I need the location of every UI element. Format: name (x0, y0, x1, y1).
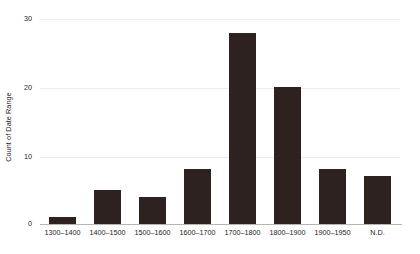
y-tick-label-0: 0 (6, 220, 32, 228)
bars-layer (40, 19, 400, 224)
bar-1800-1900[interactable] (274, 87, 301, 224)
x-axis-line (40, 224, 402, 225)
x-tick-label: 1900–1950 (310, 228, 355, 238)
y-tick-label-10: 10 (6, 153, 32, 161)
bar-1600-1700[interactable] (184, 169, 211, 224)
bar-1400-1500[interactable] (94, 190, 121, 224)
bar-1900-1950[interactable] (319, 169, 346, 224)
x-tick-label: 1300–1400 (40, 228, 85, 238)
bar-1700-1800[interactable] (229, 33, 256, 224)
bar-1500-1600[interactable] (139, 197, 166, 224)
x-tick-label: 1500–1600 (130, 228, 175, 238)
y-tick-label-30: 30 (6, 15, 32, 23)
x-tick-label: 1700–1800 (220, 228, 265, 238)
bar-nd[interactable] (364, 176, 391, 224)
x-axis-tick-labels: 1300–1400 1400–1500 1500–1600 1600–1700 … (40, 228, 400, 242)
x-tick-label: 1400–1500 (85, 228, 130, 238)
y-tick-label-20: 20 (6, 84, 32, 92)
x-tick-label: 1600–1700 (175, 228, 220, 238)
x-tick-label: 1800–1900 (265, 228, 310, 238)
bar-1300-1400[interactable] (49, 217, 76, 224)
bar-chart-figure: Count of Date Range 30 20 10 0 1300–1400… (0, 0, 420, 254)
x-tick-label: N.D. (355, 228, 400, 238)
y-axis-title: Count of Date Range (0, 0, 16, 254)
